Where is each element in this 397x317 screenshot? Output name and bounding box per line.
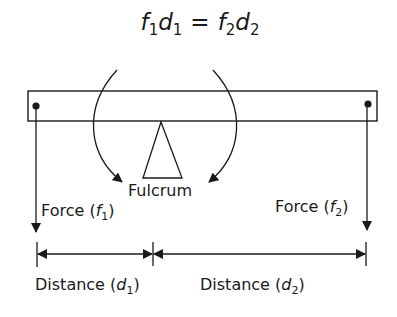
rotation-arrow-right — [209, 70, 237, 182]
distance1-label: Distance (d1) — [35, 275, 140, 297]
force-point-right — [364, 100, 371, 107]
force2-label: Force (f2) — [275, 197, 349, 219]
equation: f1d1=f2d2 — [141, 9, 260, 39]
distance2-label: Distance (d2) — [200, 275, 305, 297]
rotation-arrow-left — [93, 70, 122, 182]
lever-diagram: f1d1=f2d2 Fulcrum Force (f1) Force (f2) … — [0, 0, 397, 317]
eq-f1-sub: 1 — [149, 21, 159, 39]
eq-f2-sub: 2 — [226, 21, 236, 39]
lever-beam — [28, 91, 377, 121]
eq-d2-sub: 2 — [250, 21, 260, 39]
eq-d1-sub: 1 — [173, 21, 183, 39]
fulcrum-triangle — [143, 122, 182, 178]
eq-d2: d — [235, 9, 250, 35]
force1-label: Force (f1) — [41, 201, 115, 223]
eq-equals: = — [190, 9, 209, 35]
fulcrum-label: Fulcrum — [128, 181, 192, 200]
eq-d1: d — [158, 9, 173, 35]
